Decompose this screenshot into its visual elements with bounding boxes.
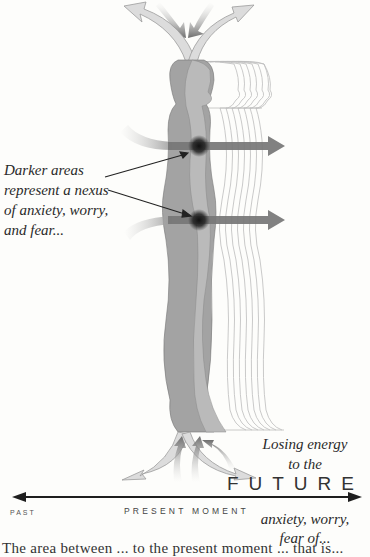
body-text-cutoff: The area between ... to the present mome…	[2, 540, 344, 557]
energy-caption-line: Losing energy	[250, 434, 360, 454]
fear-caption-line: anxiety, worry,	[250, 510, 360, 529]
nexus-caption-line: and fear...	[4, 220, 114, 240]
human-silhouette	[162, 60, 226, 432]
incoming-arrows-side	[120, 125, 172, 240]
nexus-caption: Darker areas represent a nexus of anxiet…	[4, 160, 114, 240]
future-label: FUTURE	[227, 473, 364, 495]
nexus-caption-line: Darker areas	[4, 160, 114, 180]
nexus-caption-line: represent a nexus	[4, 180, 114, 200]
past-label: PAST	[10, 509, 36, 516]
energy-caption: Losing energy to the	[250, 434, 360, 474]
energy-caption-line: to the	[250, 454, 360, 474]
present-moment-label: PRESENT MOMENT	[124, 506, 249, 516]
nexus-caption-line: of anxiety, worry,	[4, 200, 114, 220]
